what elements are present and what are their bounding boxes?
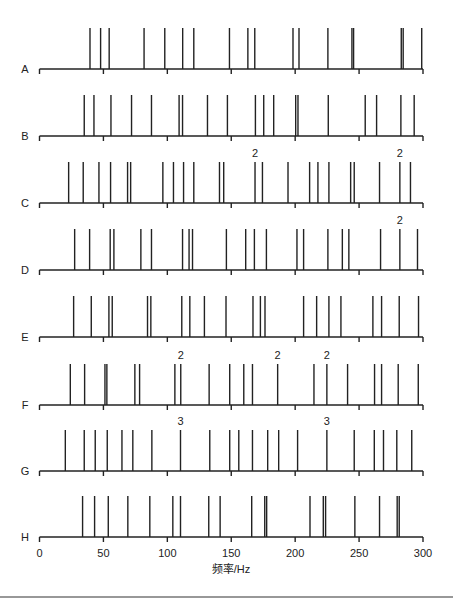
x-tick-label: 100 xyxy=(158,547,176,559)
x-tick-label: 300 xyxy=(414,547,432,559)
spectrum-raster-chart: ABC22D2EF222G33H 050100150200250300 频率/H… xyxy=(0,0,453,599)
row-b: B xyxy=(21,95,423,142)
row-f: F222 xyxy=(22,349,423,411)
x-tick-label: 200 xyxy=(286,547,304,559)
multiplicity-label: 2 xyxy=(178,349,184,361)
row-label: E xyxy=(21,331,28,343)
row-a: A xyxy=(21,28,423,75)
row-label: H xyxy=(21,531,29,543)
row-label: B xyxy=(21,130,28,142)
x-axis-title: 频率/Hz xyxy=(212,562,251,575)
row-d: D2 xyxy=(21,214,423,276)
multiplicity-label: 2 xyxy=(397,147,403,159)
multiplicity-label: 3 xyxy=(177,415,183,427)
row-label: C xyxy=(21,197,29,209)
row-c: C22 xyxy=(21,147,423,209)
row-h: H xyxy=(21,496,423,543)
multiplicity-label: 2 xyxy=(252,147,258,159)
row-label: D xyxy=(21,264,29,276)
multiplicity-label: 3 xyxy=(324,415,330,427)
row-e: E xyxy=(21,296,423,343)
row-label: G xyxy=(21,465,30,477)
x-axis: 050100150200250300 xyxy=(36,547,432,559)
multiplicity-label: 2 xyxy=(324,349,330,361)
row-g: G33 xyxy=(21,415,423,477)
row-label: F xyxy=(22,399,29,411)
x-tick-label: 250 xyxy=(350,547,368,559)
multiplicity-label: 2 xyxy=(397,214,403,226)
multiplicity-label: 2 xyxy=(275,349,281,361)
row-label: A xyxy=(21,63,29,75)
rows-group: ABC22D2EF222G33H xyxy=(21,28,423,543)
x-tick-label: 50 xyxy=(97,547,109,559)
x-tick-label: 150 xyxy=(222,547,240,559)
x-tick-label: 0 xyxy=(36,547,42,559)
